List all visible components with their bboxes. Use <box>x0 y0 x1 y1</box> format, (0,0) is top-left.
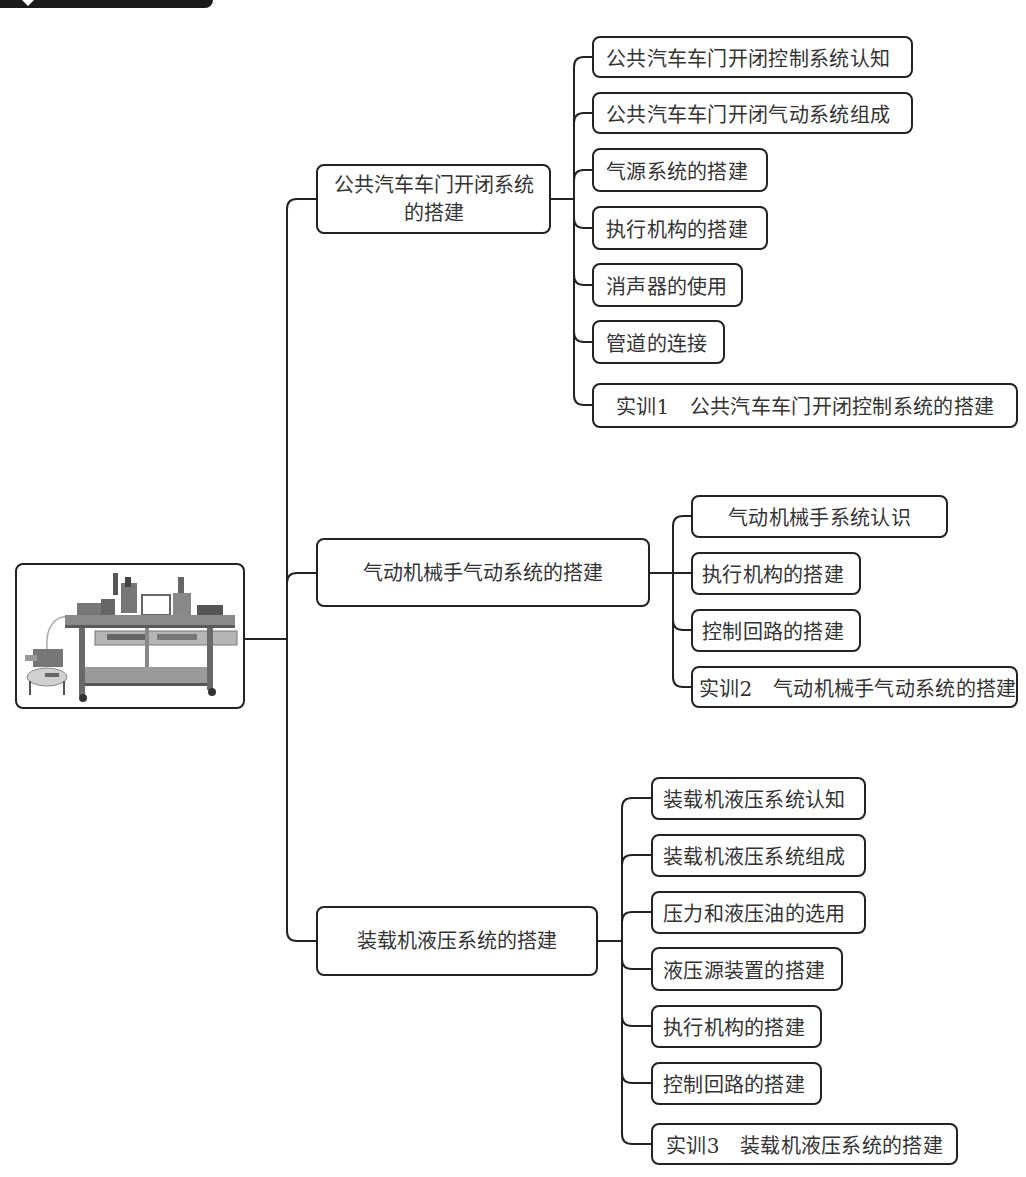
leaf-label: 气源系统的搭建 <box>606 156 748 185</box>
leaf-node[interactable]: 气动机械手系统认识 <box>691 495 948 538</box>
leaf-label: 控制回路的搭建 <box>702 616 844 645</box>
leaf-label: 执行机构的搭建 <box>702 559 844 588</box>
leaf-node[interactable]: 公共汽车车门开闭气动系统组成 <box>592 92 913 134</box>
leaf-label: 实训3 装载机液压系统的搭建 <box>666 1130 943 1159</box>
leaf-node[interactable]: 消声器的使用 <box>592 263 743 307</box>
trunk-branch-2 <box>287 573 317 583</box>
leaf-label: 公共汽车车门开闭控制系统认知 <box>606 43 890 72</box>
branch-label-line-1: 装载机液压系统的搭建 <box>357 927 557 955</box>
leaf-node[interactable]: 执行机构的搭建 <box>691 552 861 595</box>
leaf-node[interactable]: 执行机构的搭建 <box>651 1005 822 1048</box>
leaf-label: 液压源装置的搭建 <box>663 955 825 984</box>
leaf-label: 执行机构的搭建 <box>606 214 748 243</box>
leaf-node[interactable]: 控制回路的搭建 <box>651 1062 822 1105</box>
leaf-label: 公共汽车车门开闭气动系统组成 <box>606 99 890 128</box>
leaf-label: 装载机液压系统认知 <box>663 784 846 813</box>
leaf-node-training-2[interactable]: 实训2 气动机械手气动系统的搭建 <box>691 666 1018 708</box>
leaf-node[interactable]: 压力和液压油的选用 <box>651 891 866 934</box>
leaf-label: 实训1 公共汽车车门开闭控制系统的搭建 <box>616 391 994 420</box>
leaf-node[interactable]: 管道的连接 <box>592 320 725 364</box>
equipment-photo-icon <box>17 565 243 707</box>
leaf-node[interactable]: 液压源装置的搭建 <box>651 947 843 991</box>
leaf-node[interactable]: 控制回路的搭建 <box>691 609 861 652</box>
leaf-node[interactable]: 执行机构的搭建 <box>592 206 768 250</box>
leaf-label: 管道的连接 <box>606 328 708 357</box>
leaf-node-training-3[interactable]: 实训3 装载机液压系统的搭建 <box>651 1123 958 1165</box>
leaf-label: 消声器的使用 <box>606 271 728 300</box>
leaf-label: 执行机构的搭建 <box>663 1012 805 1041</box>
leaf-node[interactable]: 装载机液压系统认知 <box>651 777 866 820</box>
leaf-label: 实训2 气动机械手气动系统的搭建 <box>699 673 1017 702</box>
branch-label-line-2: 的搭建 <box>404 199 464 227</box>
leaf-label: 装载机液压系统组成 <box>663 841 846 870</box>
leaf-node[interactable]: 气源系统的搭建 <box>592 148 768 192</box>
trunk-line <box>287 199 316 941</box>
leaf-label: 控制回路的搭建 <box>663 1069 805 1098</box>
branch-label-line-1: 公共汽车车门开闭系统 <box>334 171 534 199</box>
leaf-label: 压力和液压油的选用 <box>663 898 846 927</box>
leaf-node[interactable]: 公共汽车车门开闭控制系统认知 <box>592 36 913 78</box>
root-node-equipment[interactable] <box>15 563 245 709</box>
leaf-node[interactable]: 装载机液压系统组成 <box>651 834 866 877</box>
branch-node-loader-hydraulic[interactable]: 装载机液压系统的搭建 <box>316 906 598 976</box>
branch-node-bus-door-system[interactable]: 公共汽车车门开闭系统 的搭建 <box>316 164 551 234</box>
leaf-node-training-1[interactable]: 实训1 公共汽车车门开闭控制系统的搭建 <box>592 383 1018 428</box>
branch-node-pneumatic-manipulator[interactable]: 气动机械手气动系统的搭建 <box>316 538 650 607</box>
branch-label-line-1: 气动机械手气动系统的搭建 <box>363 559 603 587</box>
leaf-label: 气动机械手系统认识 <box>728 502 911 531</box>
